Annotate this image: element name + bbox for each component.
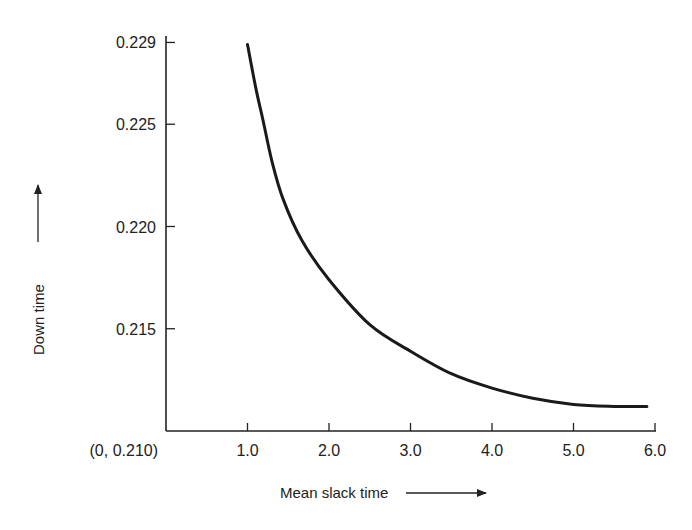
y-tick-label: 0.225 [116, 116, 156, 133]
x-ticks: 1.02.03.04.05.06.0 [236, 423, 666, 459]
y-axis-title-group: Down time [30, 284, 47, 355]
x-tick-label: 2.0 [318, 442, 340, 459]
x-tick-label: 6.0 [644, 442, 666, 459]
x-tick-label: 4.0 [481, 442, 503, 459]
y-tick-label: 0.215 [116, 321, 156, 338]
y-tick-label: 0.220 [116, 219, 156, 236]
chart: 0.2150.2200.2250.229 1.02.03.04.05.06.0 … [0, 0, 692, 530]
origin-label: (0, 0.210) [90, 442, 158, 459]
y-axis-title: Down time [30, 284, 47, 355]
x-tick-label: 3.0 [399, 442, 421, 459]
x-tick-label: 1.0 [236, 442, 258, 459]
x-tick-label: 5.0 [562, 442, 584, 459]
y-tick-label: 0.229 [116, 34, 156, 51]
data-curve [248, 45, 647, 407]
x-axis-title: Mean slack time [280, 484, 388, 501]
